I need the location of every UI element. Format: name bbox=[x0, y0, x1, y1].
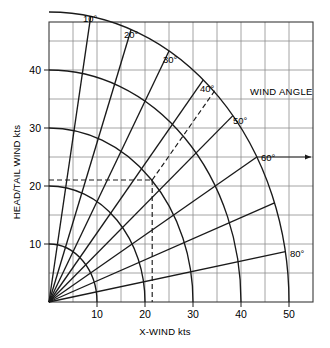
crosswind-component-chart: 10° 20° 30° 40° 50° 60° 80° 10 20 30 40 … bbox=[0, 0, 330, 348]
wind-angle-annotation: WIND ANGLE bbox=[250, 86, 313, 97]
angle-label-80: 80° bbox=[290, 248, 305, 259]
y-axis-title: HEAD/TAIL WIND kts bbox=[11, 125, 22, 219]
x-axis-title: X-WIND kts bbox=[139, 326, 191, 337]
x-tick-20: 20 bbox=[139, 308, 151, 320]
x-tick-40: 40 bbox=[235, 308, 247, 320]
x-tick-50: 50 bbox=[283, 308, 295, 320]
chart-svg: 10° 20° 30° 40° 50° 60° 80° 10 20 30 40 … bbox=[0, 0, 330, 348]
angle-label-60: 60° bbox=[261, 152, 276, 163]
angle-label-30: 30° bbox=[163, 54, 178, 65]
x-tick-10: 10 bbox=[91, 308, 103, 320]
y-tick-40: 40 bbox=[29, 64, 41, 76]
y-tick-10: 10 bbox=[29, 238, 41, 250]
angle-label-40: 40° bbox=[200, 83, 215, 94]
angle-label-10: 10° bbox=[83, 13, 98, 24]
y-tick-20: 20 bbox=[29, 180, 41, 192]
angle-label-20: 20° bbox=[124, 29, 139, 40]
y-tick-30: 30 bbox=[29, 122, 41, 134]
angle-label-50: 50° bbox=[233, 115, 248, 126]
x-tick-30: 30 bbox=[187, 308, 199, 320]
